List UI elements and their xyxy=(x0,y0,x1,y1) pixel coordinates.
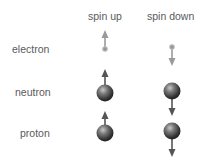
electron-spin-down-icon xyxy=(169,44,176,66)
proton-spin-up-icon xyxy=(97,111,114,142)
electron-spin-up-icon xyxy=(102,30,109,52)
neutron-spin-up-icon xyxy=(97,69,114,102)
neutron-spin-down-icon xyxy=(164,83,181,117)
spin-diagram xyxy=(0,0,205,166)
proton-spin-down-icon xyxy=(164,123,181,158)
